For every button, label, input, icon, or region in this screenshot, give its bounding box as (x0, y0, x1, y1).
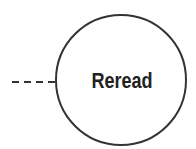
node-label: Reread (92, 68, 151, 94)
